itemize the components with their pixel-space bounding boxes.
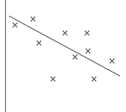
data-point-x-marker [13, 23, 18, 28]
data-point-x-marker [31, 17, 36, 22]
data-point-x-marker [110, 59, 115, 64]
data-point-x-marker [73, 55, 78, 60]
data-point-x-marker [85, 31, 90, 36]
scatter-chart [0, 0, 126, 112]
data-point-x-marker [51, 77, 56, 82]
data-point-x-marker [37, 41, 42, 46]
data-point-x-marker [92, 77, 97, 82]
data-point-x-marker [86, 49, 91, 54]
trend-line [9, 16, 120, 76]
plot-area [9, 16, 120, 81]
data-point-x-marker [63, 31, 68, 36]
